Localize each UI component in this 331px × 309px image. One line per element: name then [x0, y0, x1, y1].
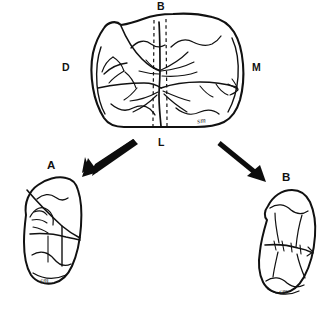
section-b-groove-up-2: [296, 215, 302, 247]
section-a-fossa-line-2: [32, 220, 47, 223]
signature-section-a: sm: [40, 276, 49, 286]
distolingual-cusp-wave: [111, 104, 155, 115]
mesial-marginal-ridge: [228, 38, 238, 112]
tooth-sectioning-figure: B D M L A B sm sm sm: [0, 0, 331, 309]
mesial-supplemental-groove-2: [216, 84, 228, 95]
section-a-fossa-line-3: [33, 227, 48, 233]
signature-main-view: sm: [197, 116, 207, 126]
groove-branch-dl-3: [124, 88, 137, 100]
label-lingual-bottom: L: [158, 137, 165, 148]
arrow-to-section-a-shaft: [92, 141, 135, 170]
section-a-oblique-ridge: [27, 190, 80, 238]
main-tooth-group: [92, 14, 244, 127]
label-mesial-right: M: [252, 62, 261, 73]
distal-fossa-line-3: [109, 71, 124, 83]
section-b-groove-tick-1: [274, 241, 276, 250]
section-dash-right: [166, 19, 167, 127]
section-a-fossa-arc: [30, 208, 53, 225]
upper-fossa-line-2: [139, 71, 159, 74]
mesial-supplemental-groove-1: [200, 86, 213, 97]
distal-fossa-line-4: [125, 72, 136, 88]
label-distal-left: D: [62, 62, 70, 73]
section-b-groove-tick-4: [300, 245, 301, 254]
groove-branch-um-1: [161, 52, 188, 70]
label-buccal-top: B: [157, 1, 165, 12]
label-section-a: A: [47, 160, 56, 172]
section-dash-left: [153, 20, 154, 128]
section-b-transverse-groove: [265, 245, 313, 253]
signature-section-b: sm: [279, 287, 288, 296]
section-a-cusp-wave-bottom: [32, 252, 71, 265]
section-a-cusp-wave-top: [37, 195, 68, 200]
central-groove-horizontal-mesial: [161, 82, 236, 88]
section-b-groove-down-2: [297, 254, 305, 278]
section-b-cusp-wave-top: [270, 205, 308, 214]
section-b-group: [259, 190, 315, 294]
section-b-groove-tick-2: [282, 241, 284, 251]
groove-branch-um-3: [162, 72, 197, 76]
distal-fossa-line-2: [102, 57, 113, 72]
central-groove-horizontal: [98, 83, 161, 88]
section-b-groove-up-1: [275, 213, 279, 243]
section-b-groove-tick-3: [291, 243, 292, 252]
section-b-outline: [259, 190, 315, 293]
section-a-fossa-line-1: [34, 211, 47, 215]
section-a-outline: [24, 177, 81, 283]
figure-drawing-canvas: [0, 0, 331, 309]
section-a-group: [24, 177, 81, 283]
section-b-groove-down-1: [273, 252, 278, 277]
label-section-b: B: [282, 172, 291, 184]
section-a-marginal-arc: [33, 273, 66, 278]
arrow-to-section-b-shaft: [219, 143, 257, 174]
mesiobuccal-cusp-wave: [171, 36, 221, 47]
